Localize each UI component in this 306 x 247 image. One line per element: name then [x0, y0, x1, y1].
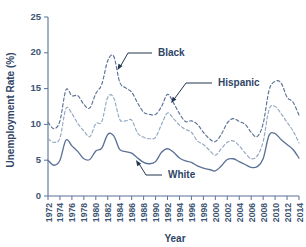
y-axis-title: Unemployment Rate (%) [5, 52, 16, 167]
y-axis-title-text: Unemployment Rate (%) [5, 52, 16, 167]
x-tick-label: 1976 [67, 203, 77, 222]
x-tick-label: 2000 [211, 203, 221, 222]
y-axis-ticks: 0510152025 [30, 11, 48, 201]
series-lines [48, 55, 299, 171]
annotation-leader-white [139, 163, 163, 175]
unemployment-rate-line-chart: Unemployment Rate (%) Year 0510152025 19… [0, 0, 306, 247]
series-label-white: White [168, 169, 196, 180]
x-tick-label: 1974 [55, 203, 65, 222]
x-tick-label: 1988 [139, 203, 149, 222]
series-line-white [48, 133, 299, 172]
x-tick-label: 2002 [223, 203, 233, 222]
x-tick-label: 1980 [91, 203, 101, 222]
x-tick-label: 1972 [44, 203, 54, 222]
x-tick-label: 2012 [283, 203, 293, 222]
x-tick-label: 1996 [187, 203, 197, 222]
y-tick-label: 0 [36, 190, 41, 201]
x-axis-title: Year [164, 233, 185, 244]
series-label-hispanic: Hispanic [218, 77, 260, 88]
x-tick-label: 1984 [115, 203, 125, 222]
y-tick-label: 5 [36, 154, 42, 165]
x-tick-label: 1978 [79, 203, 89, 222]
x-tick-label: 2006 [247, 203, 257, 222]
y-tick-label: 10 [30, 118, 41, 129]
x-tick-label: 2008 [259, 203, 269, 222]
x-tick-label: 1990 [151, 203, 161, 222]
x-tick-label: 1992 [163, 203, 173, 222]
annotation-leader-hispanic [174, 83, 213, 100]
x-tick-label: 1986 [127, 203, 137, 222]
series-label-black: Black [158, 47, 185, 58]
x-tick-label: 2010 [271, 203, 281, 222]
chart-container: Unemployment Rate (%) Year 0510152025 19… [0, 0, 306, 247]
x-tick-label: 1998 [199, 203, 209, 222]
x-tick-label: 1982 [103, 203, 113, 222]
series-line-hispanic [48, 95, 299, 159]
x-axis-title-text: Year [164, 233, 185, 244]
x-tick-label: 1994 [175, 203, 185, 222]
y-tick-label: 15 [30, 82, 41, 93]
y-tick-label: 20 [30, 46, 41, 57]
annotation-leader-black [120, 53, 152, 67]
x-axis-ticks: 1972197419761978198019821984198619881990… [44, 196, 305, 222]
x-tick-label: 2004 [235, 203, 245, 222]
x-tick-label: 2014 [295, 203, 305, 222]
y-tick-label: 25 [30, 11, 41, 22]
series-annotations: BlackHispanicWhite [116, 47, 261, 180]
